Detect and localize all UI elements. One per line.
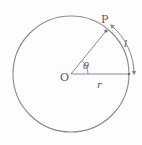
angle-theta-label: θ bbox=[83, 61, 89, 71]
point-p-marker bbox=[104, 29, 107, 32]
diagram-canvas bbox=[0, 0, 142, 145]
point-p-label: P bbox=[101, 14, 108, 25]
arc-length-marker bbox=[111, 25, 134, 74]
radius-label: r bbox=[97, 80, 102, 90]
arc-length-label: l bbox=[124, 39, 127, 49]
center-o-label: O bbox=[60, 72, 69, 83]
circle-arc-diagram: P O l r θ bbox=[0, 0, 142, 145]
radius-endpoint-marker bbox=[128, 73, 131, 76]
